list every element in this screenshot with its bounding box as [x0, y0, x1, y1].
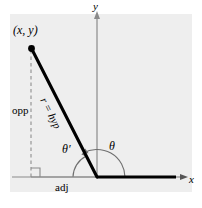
right-angle-marker-icon	[31, 168, 40, 177]
x-axis-arrowhead-icon	[180, 174, 188, 180]
hypotenuse-line	[32, 49, 98, 178]
angle-label: θ	[109, 140, 115, 152]
opposite-side-label: opp	[12, 105, 29, 116]
y-axis-label: y	[93, 1, 98, 12]
trig-diagram-figure: (x, y) y x opp adj r = hyp θ′ θ	[0, 0, 202, 208]
point-coordinates-label: (x, y)	[13, 24, 38, 36]
adjacent-side-label: adj	[55, 182, 68, 193]
theta-prime-angle-arc	[73, 156, 86, 177]
x-axis-label: x	[189, 174, 194, 185]
terminal-point-dot	[28, 45, 35, 52]
y-axis-arrowhead-icon	[94, 11, 100, 19]
reference-angle-label: θ′	[62, 143, 71, 155]
